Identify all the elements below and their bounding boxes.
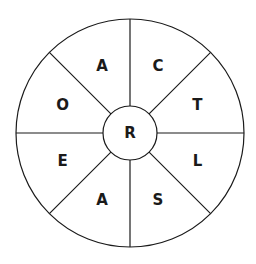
segment-letter: L: [193, 152, 203, 170]
segment-letter: O: [56, 96, 69, 114]
word-wheel: CTLSAEOA R: [0, 0, 256, 264]
segment-letter: S: [153, 191, 164, 209]
center-letter: R: [124, 124, 136, 142]
segment-letter: A: [96, 57, 108, 75]
segment-letter: E: [57, 152, 67, 170]
segment-letter: A: [96, 191, 108, 209]
segment-letter: T: [192, 96, 203, 114]
segment-letter: C: [152, 57, 163, 75]
